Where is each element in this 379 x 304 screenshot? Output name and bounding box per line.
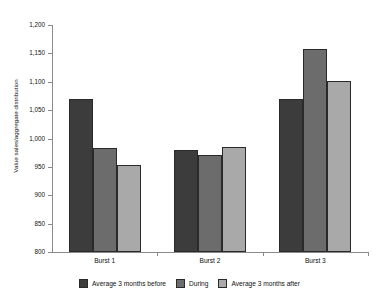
plot-area: 1,2001,1501,1001,0501,000950900850800Bur… [52,25,368,252]
bar-group-bars [157,25,262,252]
x-axis-separator-tick [157,252,158,256]
bar [93,148,117,252]
x-axis-category-label: Burst 3 [263,256,368,265]
bar-group-bars [263,25,368,252]
x-axis-category-label: Burst 2 [157,256,262,265]
x-axis-line [52,252,368,253]
y-axis-tick-label: 800 [34,247,45,256]
legend-label: Average 3 months before [92,279,166,288]
legend-item: Average 3 months before [79,279,166,288]
y-axis-tick: 800 [48,252,52,253]
y-axis-tick-label: 1,050 [29,105,45,114]
bar [69,99,93,252]
legend-label: Average 3 months after [231,279,299,288]
x-axis-category-label: Burst 1 [52,256,157,265]
bar [174,150,198,252]
bar [117,165,141,252]
y-axis-tick-label: 1,100 [29,77,45,86]
bar-group: Burst 1 [52,25,157,252]
bar [327,81,351,252]
bar-group-bars [52,25,157,252]
legend-item: Average 3 months after [218,279,299,288]
legend-swatch [79,279,88,288]
legend-swatch [176,279,185,288]
bar-group: Burst 3 [263,25,368,252]
y-axis-title: Value sales/aggregate distribution [10,0,22,252]
x-axis-separator-tick [368,252,369,256]
bar-chart: Value sales/aggregate distribution 1,200… [0,0,379,304]
y-axis-tick-label: 900 [34,190,45,199]
bar [222,147,246,252]
chart-legend: Average 3 months beforeDuringAverage 3 m… [0,279,379,288]
y-axis-tick-label: 950 [34,162,45,171]
legend-label: During [189,279,208,288]
bar-group: Burst 2 [157,25,262,252]
y-axis-tick-label: 1,200 [29,20,45,29]
y-axis-tick-label: 1,000 [29,134,45,143]
legend-item: During [176,279,208,288]
bar [198,155,222,252]
y-axis-tick-label: 850 [34,219,45,228]
bar [303,49,327,252]
bar [279,99,303,252]
x-axis-separator-tick [263,252,264,256]
legend-swatch [218,279,227,288]
y-axis-tick-label: 1,150 [29,48,45,57]
